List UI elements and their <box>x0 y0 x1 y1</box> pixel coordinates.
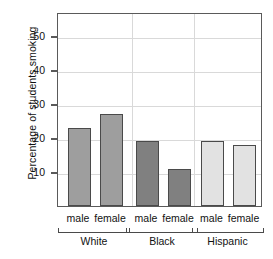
bar-white-female <box>100 114 123 206</box>
bar-chart: Percentage of students smoking 102030405… <box>0 0 272 259</box>
gridline <box>58 38 261 39</box>
group-separator <box>132 14 133 206</box>
bar-black-male <box>136 141 159 206</box>
plot-area <box>57 13 262 207</box>
y-tick-label: 20 <box>21 132 45 144</box>
group-bracket-black <box>126 228 198 233</box>
bar-hispanic-female <box>233 145 256 206</box>
y-tick-label: 50 <box>21 30 45 42</box>
y-tick-label: 30 <box>21 98 45 110</box>
bar-black-female <box>168 169 191 206</box>
x-label-hispanic-female: female <box>214 212 273 224</box>
group-separator <box>194 14 195 206</box>
group-bracket-white <box>58 228 130 233</box>
bar-hispanic-male <box>201 141 224 206</box>
y-tick-label: 10 <box>21 166 45 178</box>
y-tick-label: 40 <box>21 64 45 76</box>
group-bracket-hispanic <box>192 228 264 233</box>
gridline <box>58 72 261 73</box>
group-label-hispanic: Hispanic <box>172 235 273 247</box>
gridline <box>58 106 261 107</box>
bar-white-male <box>68 128 91 206</box>
